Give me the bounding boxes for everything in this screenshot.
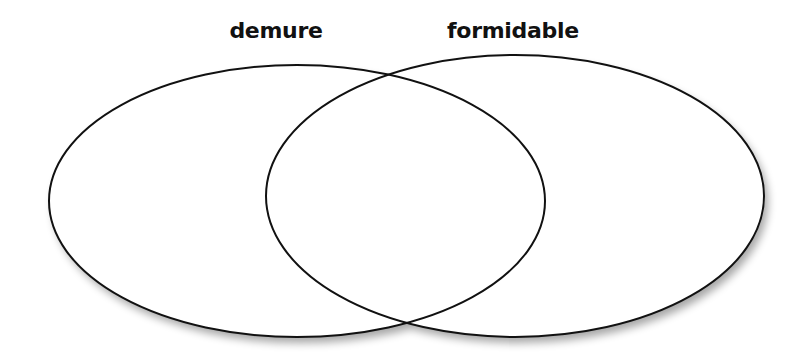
set-label-formidable: formidable [447,18,579,43]
venn-shapes [0,0,810,355]
set-label-demure: demure [229,18,322,43]
ellipse-shadows [49,55,764,337]
